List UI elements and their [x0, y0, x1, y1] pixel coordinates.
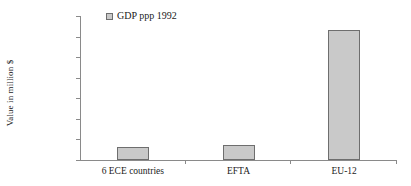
- y-axis-title: Value in million $: [0, 0, 20, 186]
- x-axis-category-label: EU-12: [331, 166, 356, 176]
- x-axis-category-label: EFTA: [227, 166, 250, 176]
- y-axis-tick: [76, 98, 80, 99]
- bar: [328, 30, 360, 160]
- x-axis-tick: [290, 160, 291, 164]
- legend-entry-label: GDP ppp 1992: [117, 11, 177, 21]
- y-axis-tick: [76, 37, 80, 38]
- y-axis-line: [80, 16, 81, 160]
- y-axis-tick: [76, 78, 80, 79]
- y-axis-tick: [76, 119, 80, 120]
- bar-chart: Value in million $ 6 ECE countriesEFTAEU…: [0, 0, 411, 186]
- y-axis-tick: [76, 160, 80, 161]
- chart-legend: GDP ppp 1992: [106, 11, 177, 21]
- x-axis-line: [80, 160, 397, 161]
- bar: [117, 147, 149, 160]
- plot-area: 6 ECE countriesEFTAEU-12: [80, 16, 397, 160]
- legend-swatch-icon: [106, 13, 113, 20]
- y-axis-tick: [76, 16, 80, 17]
- x-axis-category-label: 6 ECE countries: [102, 166, 164, 176]
- x-axis-tick: [185, 160, 186, 164]
- bar: [223, 145, 255, 160]
- y-axis-tick: [76, 139, 80, 140]
- x-axis-tick: [396, 160, 397, 164]
- y-axis-tick: [76, 57, 80, 58]
